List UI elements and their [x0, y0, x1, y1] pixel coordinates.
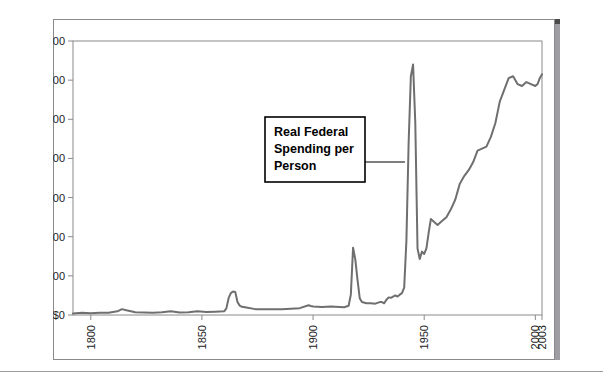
footer-divider: [0, 371, 603, 372]
spending-line-chart: $0$1000$2000$3000$4000$5000$6000$7000180…: [53, 19, 555, 360]
x-axis-label: 2003: [536, 325, 548, 349]
y-axis-label: $7000: [53, 35, 65, 47]
y-axis-label: $1000: [53, 270, 65, 282]
callout-text-line: Spending per: [274, 142, 354, 156]
y-axis-label: $5000: [53, 113, 65, 125]
y-axis-label: $3000: [53, 192, 65, 204]
x-axis-label: 1850: [196, 325, 208, 349]
y-axis-label: $0: [53, 309, 65, 321]
chart-canvas: $0$1000$2000$3000$4000$5000$6000$7000180…: [53, 19, 555, 360]
y-axis-label: $2000: [53, 231, 65, 243]
y-axis-label: $4000: [53, 152, 65, 164]
card-shadow-right: [555, 24, 560, 360]
callout-text-line: Real Federal: [274, 125, 348, 139]
chart-page: $0$1000$2000$3000$4000$5000$6000$7000180…: [0, 0, 603, 383]
callout-text-line: Person: [274, 159, 316, 173]
x-axis-label: 1900: [307, 325, 319, 349]
x-axis-label: 1800: [85, 325, 97, 349]
x-axis-label: 1950: [418, 325, 430, 349]
clipped-header-text: [0, 0, 603, 13]
y-axis-label: $6000: [53, 74, 65, 86]
